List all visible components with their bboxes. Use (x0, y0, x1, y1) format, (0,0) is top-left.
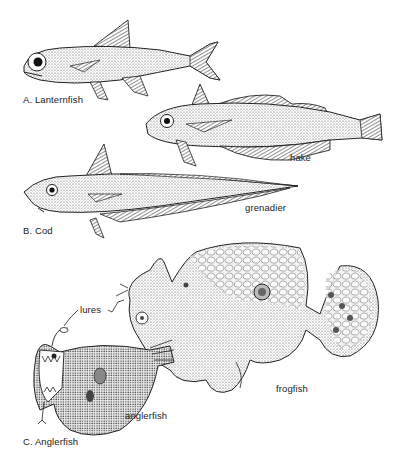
label-grenadier: grenadier (245, 202, 286, 213)
label-frogfish: frogfish (276, 383, 308, 394)
fish-illustration-figure: A. Lanternfish hake grenadier B. Cod lur… (0, 0, 399, 459)
label-lures: lures (80, 304, 101, 315)
lanternfish-drawing (24, 20, 220, 100)
label-c-anglerfish: C. Anglerfish (23, 436, 78, 447)
label-hake: hake (290, 152, 311, 163)
label-b-cod: B. Cod (23, 225, 53, 236)
label-anglerfish: anglerfish (125, 410, 167, 421)
fish-drawings (0, 0, 399, 459)
label-a-lanternfish: A. Lanternfish (23, 94, 83, 105)
hake-drawing (146, 84, 382, 166)
